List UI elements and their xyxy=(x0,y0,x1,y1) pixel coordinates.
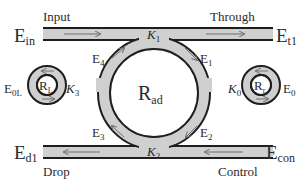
through-label: Through xyxy=(210,9,255,24)
input-label: Input xyxy=(43,9,71,24)
e-con-label: Econ xyxy=(266,142,295,165)
e-t1-label: Et1 xyxy=(276,25,297,48)
drop-label: Drop xyxy=(43,164,70,179)
e3-label: E3 xyxy=(92,125,105,142)
e0l-label: E0L xyxy=(4,81,22,98)
k0-label: K0 xyxy=(227,81,242,98)
control-label: Control xyxy=(218,164,258,179)
k3-label: K3 xyxy=(65,81,80,98)
e1-label: E1 xyxy=(200,51,212,68)
e-in-label: Ein xyxy=(14,25,35,48)
e-d1-label: Ed1 xyxy=(14,142,38,165)
e2-label: E2 xyxy=(200,125,212,142)
e4-label: E4 xyxy=(92,51,105,68)
e0-label: E0 xyxy=(283,81,296,98)
microring-diagram: Input Through Drop Control Ein Et1 Ed1 E… xyxy=(0,0,308,185)
